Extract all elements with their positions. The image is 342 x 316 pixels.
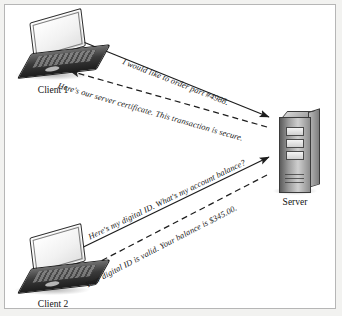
laptop-trackpad bbox=[44, 66, 61, 73]
server-vent bbox=[285, 174, 304, 175]
laptop-trackpad bbox=[44, 281, 61, 288]
server-drive-bay bbox=[286, 139, 304, 148]
client2-laptop-icon bbox=[17, 238, 95, 300]
server-front-panel bbox=[279, 117, 311, 193]
server-label: Server bbox=[245, 197, 336, 207]
figure-frame: Client 1 Client 2 Server bbox=[4, 4, 336, 309]
server-drive-bay bbox=[286, 127, 304, 136]
server-tower-icon bbox=[271, 109, 319, 193]
server-drive-bay bbox=[286, 151, 304, 160]
diagram-stage: Client 1 Client 2 Server bbox=[5, 5, 335, 308]
server-vent bbox=[285, 182, 304, 183]
client2-label: Client 2 bbox=[4, 299, 103, 309]
server-vent bbox=[285, 178, 304, 179]
laptop-keyboard bbox=[32, 49, 97, 67]
client1-laptop-icon bbox=[17, 23, 95, 85]
